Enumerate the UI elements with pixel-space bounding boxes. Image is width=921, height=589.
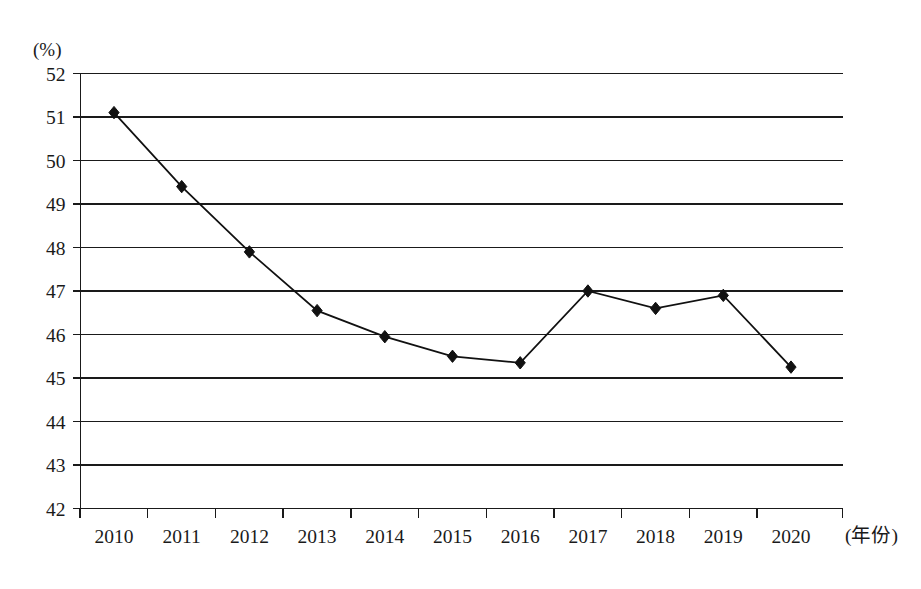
y-tick-label-46: 46 (46, 325, 66, 346)
x-tick-label-2020: 2020 (772, 526, 811, 547)
y-tick-label-49: 49 (46, 194, 66, 215)
y-tick-label-51: 51 (46, 107, 66, 128)
x-tick-label-2018: 2018 (636, 526, 675, 547)
y-tick-label-47: 47 (46, 281, 66, 302)
x-tick-label-2014: 2014 (365, 526, 404, 547)
x-tick-label-2013: 2013 (298, 526, 337, 547)
y-tick-label-42: 42 (46, 499, 66, 520)
chart-canvas: (%) 4243444546474849505152 2010201120122… (0, 0, 921, 589)
chart-background (0, 0, 921, 589)
x-tick-label-2010: 2010 (95, 526, 134, 547)
x-tick-label-2015: 2015 (433, 526, 472, 547)
y-tick-label-45: 45 (46, 368, 66, 389)
y-tick-label-50: 50 (46, 151, 66, 172)
x-tick-label-2016: 2016 (501, 526, 540, 547)
x-tick-label-2011: 2011 (163, 526, 201, 547)
y-tick-label-48: 48 (46, 238, 66, 259)
y-tick-label-44: 44 (46, 412, 66, 433)
x-tick-label-2019: 2019 (704, 526, 743, 547)
y-tick-label-43: 43 (46, 455, 66, 476)
y-tick-label-52: 52 (46, 64, 66, 85)
x-axis-unit-label: (年份) (845, 525, 898, 547)
y-axis-unit-label: (%) (33, 39, 61, 61)
x-tick-label-2017: 2017 (568, 526, 607, 547)
line-chart: (%) 4243444546474849505152 2010201120122… (0, 0, 921, 589)
x-tick-label-2012: 2012 (230, 526, 269, 547)
